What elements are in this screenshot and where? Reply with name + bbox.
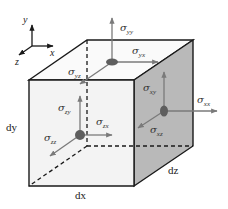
z-axis-label: z	[14, 56, 19, 67]
dy-label: dy	[6, 121, 18, 133]
dx-label: dx	[75, 189, 87, 201]
sigma-yy-label: σyy	[120, 22, 134, 36]
coordinate-axes: y x z	[14, 14, 55, 67]
top-face-point	[106, 59, 118, 66]
z-axis-arrow	[19, 46, 32, 55]
dz-label: dz	[168, 164, 179, 176]
stress-cube-diagram: y x z σyy σyx σyz σzy σzx σzz	[0, 0, 228, 209]
y-axis-label: y	[22, 14, 28, 25]
sigma-xx-label: σxx	[197, 94, 211, 108]
x-axis-label: x	[49, 47, 55, 58]
front-face-point	[75, 130, 85, 140]
right-face-point	[160, 106, 168, 117]
